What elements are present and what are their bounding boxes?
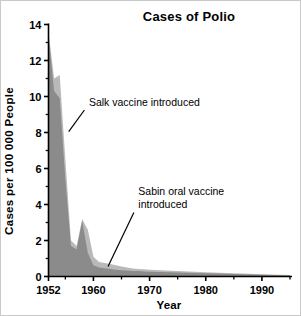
y-tick-label: 4 bbox=[35, 199, 42, 211]
y-tick-label: 2 bbox=[35, 235, 41, 247]
x-tick-label: 1980 bbox=[194, 284, 218, 296]
annotation-label-sabin: Sabin oral vaccine bbox=[138, 185, 224, 197]
x-axis-title: Year bbox=[156, 299, 181, 311]
area-series-dark-area bbox=[49, 35, 291, 276]
y-tick-label: 14 bbox=[29, 19, 42, 31]
x-tick-label: 1970 bbox=[137, 284, 161, 296]
chart-title: Cases of Polio bbox=[143, 9, 235, 24]
annotation-leader-salk bbox=[69, 110, 85, 132]
y-tick-label: 10 bbox=[29, 91, 41, 103]
annotation-leader-sabin bbox=[108, 213, 134, 267]
x-tick-label: 1960 bbox=[81, 284, 105, 296]
polio-area-chart: 0246810121419521960197019801990Cases of … bbox=[1, 1, 301, 316]
annotation-label-sabin: introduced bbox=[138, 198, 187, 210]
x-tick-label: 1990 bbox=[250, 284, 274, 296]
y-tick-label: 8 bbox=[35, 127, 41, 139]
y-tick-label: 0 bbox=[35, 271, 41, 283]
y-tick-label: 6 bbox=[35, 163, 41, 175]
y-axis-title: Cases per 100 000 People bbox=[3, 87, 15, 235]
chart-figure: 0246810121419521960197019801990Cases of … bbox=[0, 0, 301, 316]
annotation-label-salk: Salk vaccine introduced bbox=[89, 96, 200, 108]
x-tick-label: 1952 bbox=[36, 284, 60, 296]
y-tick-label: 12 bbox=[29, 55, 41, 67]
